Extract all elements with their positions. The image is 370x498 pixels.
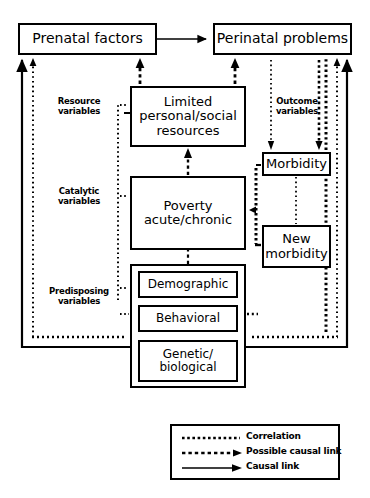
label-catalytic-variables: Catalytic variables <box>48 186 110 206</box>
node-prenatal-factors: Prenatal factors <box>18 23 157 55</box>
edge-middle-to-morbidity-column <box>249 165 261 245</box>
node-behavioral: Behavioral <box>138 305 238 332</box>
diagram-canvas: Prenatal factors Perinatal problems Limi… <box>0 0 370 498</box>
label-outcome-variables: Outcome variables <box>270 96 324 116</box>
legend-item-correlation: Correlation <box>180 431 338 445</box>
legend-label-causal-link: Causal link <box>246 461 299 471</box>
legend: Correlation Possible causal link Causal … <box>170 424 340 480</box>
legend-line-dashed-arrow <box>180 446 244 460</box>
legend-label-possible-causal-link: Possible causal link <box>246 446 341 456</box>
edge-resources-to-prenatal <box>136 58 145 84</box>
node-limited-personal-social-resources: Limited personal/social resources <box>130 86 246 147</box>
legend-item-possible-causal-link: Possible causal link <box>180 446 338 460</box>
edge-middle-left-dotted-spine <box>118 104 128 300</box>
node-genetic-biological: Genetic/ biological <box>138 340 238 382</box>
label-resource-variables: Resource variables <box>48 96 110 116</box>
node-perinatal-problems: Perinatal problems <box>213 23 352 55</box>
legend-item-causal-link: Causal link <box>180 461 338 475</box>
edge-poverty-to-resources <box>184 148 192 175</box>
node-demographic: Demographic <box>138 271 238 298</box>
legend-line-solid-arrow <box>180 461 244 475</box>
node-morbidity: Morbidity <box>262 152 331 176</box>
label-predisposing-variables: Predisposing variables <box>44 286 114 306</box>
legend-label-correlation: Correlation <box>246 431 301 441</box>
legend-line-dotted <box>180 431 244 445</box>
edge-resources-to-perinatal <box>231 58 240 84</box>
node-poverty-acute-chronic: Poverty acute/chronic <box>130 176 246 250</box>
node-new-morbidity: New morbidity <box>262 225 331 268</box>
